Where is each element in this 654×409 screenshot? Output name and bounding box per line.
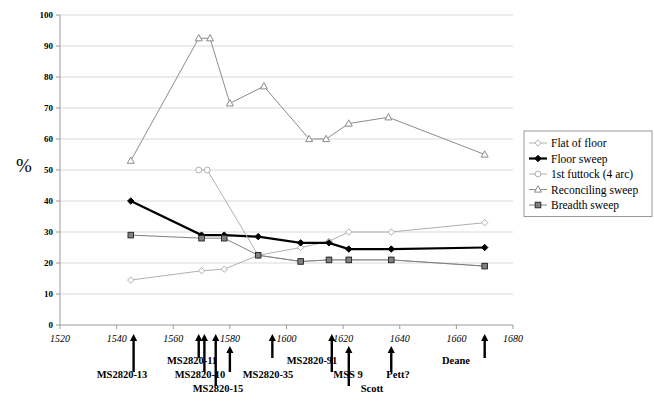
y-axis-label: % bbox=[16, 155, 32, 176]
legend-label: 1st futtock (4 arc) bbox=[551, 168, 633, 181]
marker-diamond bbox=[481, 244, 487, 250]
marker-diamond bbox=[128, 277, 134, 283]
data-point-open-circle bbox=[204, 167, 210, 173]
data-point-filled-square bbox=[535, 202, 541, 208]
marker-diamond bbox=[388, 229, 394, 235]
data-point-open-triangle bbox=[127, 157, 134, 163]
annotation-arrow-head bbox=[212, 334, 219, 341]
annotation-arrow-head bbox=[269, 334, 276, 341]
series-floor-sweep bbox=[128, 198, 488, 252]
data-point-open-circle bbox=[196, 167, 202, 173]
marker-diamond bbox=[346, 246, 352, 252]
y-tick-label: 20 bbox=[44, 258, 54, 268]
data-point-filled-diamond bbox=[481, 244, 487, 250]
data-point-filled-diamond bbox=[346, 246, 352, 252]
y-tick-label: 100 bbox=[40, 10, 54, 20]
annotation-arrow-head bbox=[345, 346, 352, 353]
y-tick-label: 30 bbox=[44, 227, 54, 237]
marker-square bbox=[128, 232, 134, 238]
marker-diamond bbox=[297, 240, 303, 246]
data-point-open-diamond bbox=[388, 229, 394, 235]
grid-layer bbox=[56, 15, 513, 329]
data-point-filled-diamond bbox=[255, 233, 261, 239]
marker-triangle bbox=[195, 35, 202, 41]
data-point-filled-square bbox=[388, 257, 394, 263]
annotation-arrow-head bbox=[130, 334, 137, 341]
y-tick-label: 0 bbox=[49, 320, 54, 330]
x-tick-label: 1580 bbox=[220, 333, 240, 344]
x-tick-label: 1640 bbox=[390, 333, 410, 344]
marker-square bbox=[326, 257, 332, 263]
data-point-open-diamond bbox=[128, 277, 134, 283]
annotation-label: MS2820-35 bbox=[243, 369, 294, 380]
series-line bbox=[199, 170, 485, 266]
series-line bbox=[131, 201, 485, 249]
y-tick-label: 80 bbox=[44, 72, 54, 82]
annotation-arrow-head bbox=[201, 334, 208, 341]
chart-container: 0102030405060708090100 15201540156015801… bbox=[0, 0, 654, 409]
x-tick-label: 1520 bbox=[50, 333, 70, 344]
data-point-open-triangle bbox=[260, 83, 267, 89]
marker-square bbox=[221, 235, 227, 241]
annotation-label: Pett? bbox=[386, 369, 409, 380]
annotation-label: Scott bbox=[361, 383, 384, 394]
marker-square bbox=[298, 259, 304, 265]
x-tick-label: 1600 bbox=[277, 333, 297, 344]
legend-label: Floor sweep bbox=[551, 153, 608, 166]
annotation-arrow-head bbox=[195, 334, 202, 341]
percentage-vs-year-line-chart: 0102030405060708090100 15201540156015801… bbox=[0, 0, 654, 409]
data-point-filled-square bbox=[221, 235, 227, 241]
x-tick-label: 1540 bbox=[107, 333, 127, 344]
marker-triangle bbox=[323, 135, 330, 141]
x-tick-label: 1660 bbox=[446, 333, 466, 344]
annotation-arrow-head bbox=[481, 334, 488, 341]
marker-triangle bbox=[127, 157, 134, 163]
annotation-arrow-head bbox=[388, 346, 395, 353]
data-point-filled-square bbox=[255, 252, 261, 258]
data-point-filled-square bbox=[199, 235, 205, 241]
data-point-filled-diamond bbox=[297, 240, 303, 246]
data-point-open-diamond bbox=[221, 266, 227, 272]
marker-diamond bbox=[346, 229, 352, 235]
legend-label: Reconciling sweep bbox=[551, 184, 638, 197]
data-point-open-circle bbox=[535, 171, 541, 177]
y-tick-label: 40 bbox=[44, 196, 54, 206]
marker-triangle bbox=[260, 83, 267, 89]
series-flat-of-floor bbox=[128, 220, 488, 284]
data-point-filled-square bbox=[128, 232, 134, 238]
annotation-label: MS2820-91 bbox=[287, 355, 338, 366]
annotation-label: MS2820-10 bbox=[175, 369, 226, 380]
x-axis-tick-labels: 152015401560158016001620164016601680 bbox=[50, 333, 523, 344]
annotation-label: MS2820-15 bbox=[193, 383, 244, 394]
data-point-open-diamond bbox=[346, 229, 352, 235]
data-point-open-triangle bbox=[226, 100, 233, 106]
data-point-open-diamond bbox=[198, 268, 204, 274]
data-point-filled-square bbox=[298, 259, 304, 265]
marker-diamond bbox=[388, 246, 394, 252]
data-point-filled-diamond bbox=[388, 246, 394, 252]
data-point-open-triangle bbox=[195, 35, 202, 41]
y-tick-label: 70 bbox=[44, 103, 54, 113]
series-1st-futtock-4-arc bbox=[196, 167, 488, 269]
x-tick-label: 1680 bbox=[503, 333, 523, 344]
annotation-label: MS2820-11 bbox=[167, 355, 217, 366]
marker-diamond bbox=[255, 233, 261, 239]
marker-circle bbox=[196, 167, 202, 173]
marker-square bbox=[346, 257, 352, 263]
annotation-pett: Pett? bbox=[386, 346, 409, 380]
data-point-open-triangle bbox=[207, 35, 214, 41]
series-line bbox=[131, 235, 485, 266]
marker-circle bbox=[204, 167, 210, 173]
series-reconciling-sweep bbox=[127, 35, 488, 164]
data-point-filled-square bbox=[346, 257, 352, 263]
marker-square bbox=[388, 257, 394, 263]
marker-square bbox=[482, 263, 488, 269]
data-point-open-diamond bbox=[481, 220, 487, 226]
series-line bbox=[131, 223, 485, 280]
data-point-open-triangle bbox=[385, 114, 392, 120]
annotation-label: Deane bbox=[442, 355, 470, 366]
marker-triangle bbox=[207, 35, 214, 41]
series-line bbox=[131, 38, 485, 160]
chart-legend: Flat of floorFloor sweep1st futtock (4 a… bbox=[524, 131, 652, 217]
marker-square bbox=[199, 235, 205, 241]
